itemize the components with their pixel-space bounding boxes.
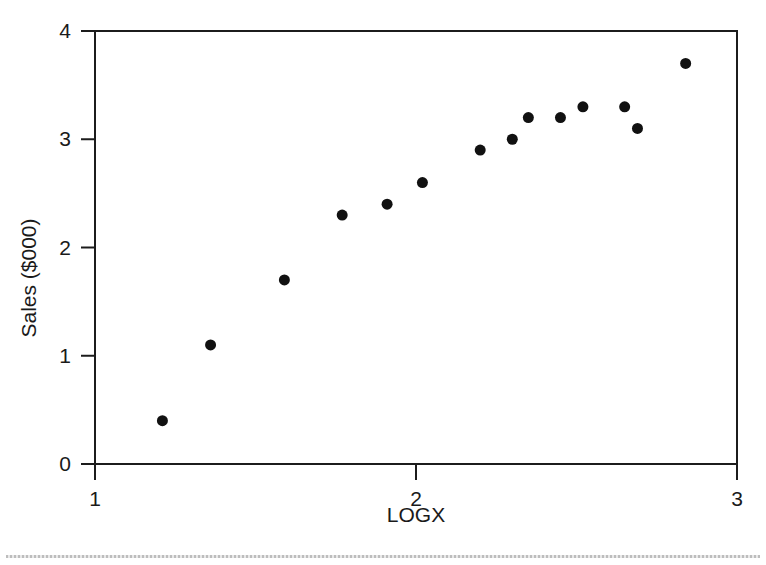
y-tick-label: 4 bbox=[59, 19, 71, 42]
y-axis-ticks: 01234 bbox=[59, 19, 95, 475]
y-axis-title: Sales ($000) bbox=[17, 218, 40, 337]
y-tick-label: 0 bbox=[59, 452, 71, 475]
data-point bbox=[417, 177, 428, 188]
data-point bbox=[157, 415, 168, 426]
data-point bbox=[680, 58, 691, 69]
data-points-group bbox=[157, 58, 691, 426]
scatter-plot-figure: 01234 123 LOGX Sales ($000) bbox=[0, 0, 766, 565]
y-tick-label: 3 bbox=[59, 127, 71, 150]
plot-svg: 01234 123 LOGX Sales ($000) bbox=[0, 0, 766, 565]
data-point bbox=[279, 274, 290, 285]
data-point bbox=[523, 112, 534, 123]
x-tick-label: 1 bbox=[89, 487, 101, 510]
x-axis-title: LOGX bbox=[387, 503, 445, 526]
data-point bbox=[632, 123, 643, 134]
data-point bbox=[475, 145, 486, 156]
data-point bbox=[205, 339, 216, 350]
data-point bbox=[382, 199, 393, 210]
data-point bbox=[555, 112, 566, 123]
data-point bbox=[337, 210, 348, 221]
y-tick-label: 2 bbox=[59, 236, 71, 259]
y-tick-label: 1 bbox=[59, 344, 71, 367]
chart-page: 01234 123 LOGX Sales ($000) bbox=[0, 0, 766, 565]
plot-frame bbox=[95, 31, 737, 464]
data-point bbox=[507, 134, 518, 145]
x-tick-label: 3 bbox=[731, 487, 743, 510]
footer-divider bbox=[6, 555, 760, 558]
data-point bbox=[619, 101, 630, 112]
data-point bbox=[577, 101, 588, 112]
